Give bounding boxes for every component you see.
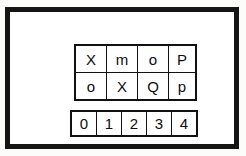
digit-cell-1[interactable]: 1 bbox=[97, 111, 122, 136]
letter-cell-r0c1[interactable]: m bbox=[107, 45, 138, 73]
letter-cell-r0c2[interactable]: o bbox=[138, 45, 169, 73]
table-row: X m o P bbox=[75, 45, 196, 73]
outer-frame: X m o P o X Q p 0 1 2 3 bbox=[5, 7, 239, 149]
letter-cell-r1c2[interactable]: Q bbox=[138, 73, 169, 101]
digit-cell-2[interactable]: 2 bbox=[122, 111, 147, 136]
letter-cell-r1c3[interactable]: p bbox=[169, 73, 197, 101]
digit-cell-3[interactable]: 3 bbox=[147, 111, 172, 136]
letter-cell-r1c0[interactable]: o bbox=[75, 73, 107, 101]
table-row: 0 1 2 3 4 bbox=[71, 111, 197, 136]
digit-strip: 0 1 2 3 4 bbox=[70, 110, 198, 137]
table-row: o X Q p bbox=[75, 73, 196, 101]
letter-cell-r1c1[interactable]: X bbox=[107, 73, 138, 101]
letter-grid: X m o P o X Q p bbox=[74, 44, 197, 101]
letter-cell-r0c0[interactable]: X bbox=[75, 45, 107, 73]
digit-cell-4[interactable]: 4 bbox=[172, 111, 198, 136]
letter-cell-r0c3[interactable]: P bbox=[169, 45, 197, 73]
digit-cell-0[interactable]: 0 bbox=[71, 111, 97, 136]
figure-root: X m o P o X Q p 0 1 2 3 bbox=[0, 0, 246, 156]
